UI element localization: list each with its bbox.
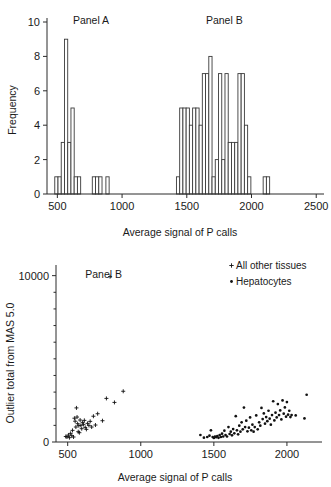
scatter-point-dot [227, 426, 230, 429]
histogram-y-tick-label: 2 [34, 154, 40, 166]
histogram-bar [68, 142, 71, 194]
histogram-bar [176, 177, 179, 194]
histogram-bar [231, 142, 234, 194]
scatter-point-plus [93, 423, 97, 427]
scatter-point-dot [271, 414, 274, 417]
scatter-point-plus [71, 428, 75, 432]
scatter-point-dot [264, 422, 267, 425]
histogram-y-tick-label: 6 [34, 85, 40, 97]
scatter-point-dot [210, 429, 213, 432]
histogram-bar [235, 142, 238, 194]
scatter-point-dot [270, 423, 273, 426]
histogram-bar [202, 74, 205, 194]
histogram-y-tick-label: 10 [28, 16, 40, 28]
scatter-x-tick-label: 1000 [129, 448, 153, 460]
scatter-point-dot [244, 426, 247, 429]
histogram-bar [74, 177, 77, 194]
scatter-point-dot [275, 416, 278, 419]
scatter-point-dot [288, 409, 291, 412]
histogram-bar [228, 142, 231, 194]
scatter-point-dot [284, 406, 287, 409]
histogram-bar [241, 74, 244, 194]
histogram-bar [209, 56, 212, 194]
scatter-point-dot [203, 436, 206, 439]
scatter-point-dot [249, 416, 252, 419]
scatter-point-plus [91, 414, 95, 418]
histogram-bar [99, 177, 102, 194]
scatter-tick-labels: 010000500100015002000 [18, 270, 299, 460]
scatter-point-dot [274, 411, 277, 414]
scatter-point-dot [305, 393, 308, 396]
scatter-point-dot [222, 435, 225, 438]
scatter-point-plus [100, 419, 104, 423]
scatter-point-dot [280, 418, 283, 421]
scatter-point-dot [281, 399, 284, 402]
scatter-point-plus [78, 418, 82, 422]
histogram-bar [71, 108, 74, 194]
scatter-point-dot [240, 421, 243, 424]
scatter-point-dot [221, 432, 224, 435]
scatter-point-plus [88, 419, 92, 423]
figure-container: 02468105001000150020002500 Frequency Ave… [0, 0, 331, 487]
scatter-point-dot [266, 420, 269, 423]
scatter-y-tick-label: 0 [43, 436, 49, 448]
histogram-bar [199, 125, 202, 194]
scatter-point-dot [233, 432, 236, 435]
histogram-x-tick-label: 2000 [239, 200, 263, 212]
histogram-bar [106, 177, 109, 194]
scatter-point-dot [229, 430, 232, 433]
histogram-x-tick-label: 1000 [110, 200, 134, 212]
scatter-point-dot [294, 414, 297, 417]
scatter-x-tick-label: 1500 [202, 448, 226, 460]
scatter-x-tick-label: 2000 [275, 448, 299, 460]
scatter-point-dot [265, 416, 268, 419]
plus-marker-icon [229, 263, 233, 267]
scatter-point-dot [258, 421, 261, 424]
scatter-point-dot [253, 426, 256, 429]
scatter-point-dot [245, 419, 248, 422]
scatter-point-dot [228, 433, 231, 436]
scatter-point-dot [273, 419, 276, 422]
scatter-point-dot [282, 412, 285, 415]
scatter-point-dot [290, 414, 293, 417]
histogram-bar [189, 125, 192, 194]
scatter-point-plus [112, 400, 116, 404]
scatter-point-dot [248, 426, 251, 429]
histogram-bar [248, 177, 251, 194]
histogram-bars [55, 39, 270, 194]
scatter-point-dot [279, 409, 282, 412]
legend-label-hepatocytes: Hepatocytes [236, 276, 292, 287]
histogram-bar [206, 74, 209, 194]
scatter-point-dot [255, 414, 258, 417]
scatter-point-dot [238, 424, 241, 427]
histogram-bar [263, 177, 266, 194]
histogram-y-axis-title: Frequency [6, 84, 18, 134]
scatter-svg: 010000500100015002000 Outlier total from… [0, 243, 331, 487]
scatter-point-dot [278, 414, 281, 417]
scatter-point-plus [96, 412, 100, 416]
histogram-bar [196, 108, 199, 194]
histogram-bar [58, 177, 61, 194]
scatter-point-dot [241, 428, 244, 431]
histogram-x-tick-label: 1500 [175, 200, 199, 212]
histogram-bar [266, 177, 269, 194]
legend-item-all-other-tissues: All other tissues [229, 260, 306, 271]
legend-label-all-other-tissues: All other tissues [236, 260, 307, 271]
scatter-series-hepatocytes [199, 393, 308, 439]
scatter-point-dot [217, 436, 220, 439]
scatter-panel-b-label: Panel B [85, 268, 122, 280]
scatter-point-dot [231, 434, 234, 437]
histogram-x-axis-title: Average signal of P calls [123, 226, 238, 238]
histogram-bar [238, 74, 241, 194]
scatter-point-dot [262, 412, 265, 415]
histogram-bar [219, 74, 222, 194]
scatter-point-dot [251, 423, 254, 426]
histogram-bar [212, 177, 215, 194]
scatter-point-dot [208, 434, 211, 437]
scatter-point-dot [259, 424, 262, 427]
scatter-point-dot [261, 418, 264, 421]
scatter-point-dot [256, 428, 259, 431]
histogram-y-tick-label: 4 [34, 119, 40, 131]
scatter-point-dot [272, 400, 275, 403]
histogram-bar [96, 177, 99, 194]
